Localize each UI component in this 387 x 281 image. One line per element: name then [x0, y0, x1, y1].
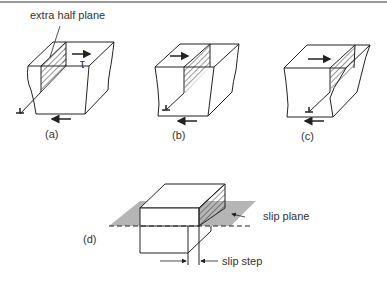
- panel-a-label: (a): [45, 129, 58, 140]
- dislocation-diagram: [0, 0, 387, 281]
- panel-b: [155, 44, 239, 121]
- panel-b-label: (b): [172, 130, 185, 141]
- extra-half-plane-label: extra half plane: [30, 10, 105, 21]
- panel-a: [16, 26, 114, 119]
- panel-c-label: (c): [301, 131, 314, 142]
- panel-d: [109, 184, 256, 265]
- tau-label: τ: [80, 58, 85, 70]
- panel-c: [284, 45, 370, 121]
- slip-plane-label: slip plane: [263, 211, 309, 222]
- slip-step-label: slip step: [222, 256, 262, 267]
- panel-d-label: (d): [83, 234, 96, 245]
